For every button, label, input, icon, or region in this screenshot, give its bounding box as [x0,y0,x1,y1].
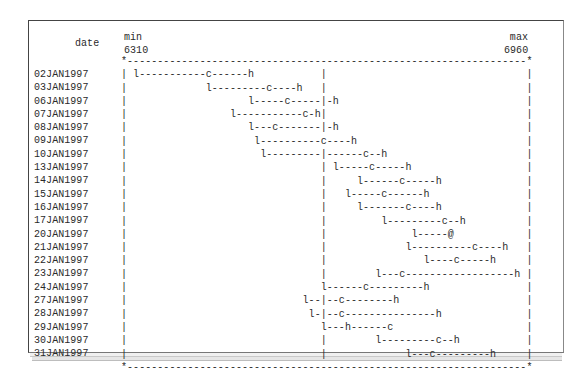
hlc-row: | l---------|------c--h | [121,148,532,161]
hlc-row: | | l---c---------h | [121,348,532,361]
row-date-label: 06JAN1997 [34,95,88,108]
hlc-row: | l-----------c------h | | [121,68,532,81]
hlc-row: | l---h------c | [121,321,532,334]
axis-min-header: min6310 [124,31,148,58]
hlc-row: | | l----c-----h | [121,254,532,267]
hlc-row: | | l-------c----h | [121,201,532,214]
hlc-row: | l-----------c-h| | [121,108,532,121]
date-column: 02JAN199703JAN199706JAN199707JAN199708JA… [34,68,88,361]
row-date-label: 03JAN1997 [34,81,88,94]
row-date-label: 10JAN1997 [34,148,88,161]
row-date-label: 20JAN1997 [34,228,88,241]
hlc-row: | | l-----c------h | [121,188,532,201]
hlc-row: | l------c---------h | [121,281,532,294]
hlc-row: | | l-----@ | [121,228,532,241]
row-date-label: 02JAN1997 [34,68,88,81]
hlc-row: | l-|--c---------------h | [121,308,532,321]
axis-max-header: max6960 [504,31,528,58]
row-date-label: 07JAN1997 [34,108,88,121]
hlc-row: | l---c-------|-h | [121,121,532,134]
row-date-label: 14JAN1997 [34,174,88,187]
row-date-label: 24JAN1997 [34,281,88,294]
hlc-row: | l---------c----h | | [121,82,532,95]
hlc-plot-area: *---------------------------------------… [121,55,532,374]
hlc-row: | | l----------c----h | [121,241,532,254]
hlc-row: | | l---------c--h | [121,334,532,347]
row-date-label: 30JAN1997 [34,334,88,347]
row-date-label: 17JAN1997 [34,214,88,227]
hlc-row: | | l---------c--h | [121,215,532,228]
row-date-label: 21JAN1997 [34,241,88,254]
row-date-label: 28JAN1997 [34,307,88,320]
max-label: max [504,31,528,44]
hlc-row: | l----------c----h | [121,135,532,148]
row-date-label: 16JAN1997 [34,201,88,214]
row-date-label: 27JAN1997 [34,294,88,307]
row-date-label: 31JAN1997 [34,347,88,360]
hlc-row: | | l-----c-----h | [121,161,532,174]
min-label: min [124,31,148,44]
hlc-row: | l-----c-----|-h | [121,95,532,108]
row-date-label: 09JAN1997 [34,134,88,147]
date-column-header: date [75,37,99,50]
plot-bottom-border: *---------------------------------------… [121,361,532,374]
plot-top-border: *---------------------------------------… [121,55,532,68]
row-date-label: 22JAN1997 [34,254,88,267]
hlc-row: | | l------c-----h | [121,175,532,188]
row-date-label: 29JAN1997 [34,321,88,334]
hlc-row: | | l---c------------------h | [121,268,532,281]
row-date-label: 23JAN1997 [34,267,88,280]
row-date-label: 08JAN1997 [34,121,88,134]
row-date-label: 13JAN1997 [34,161,88,174]
row-date-label: 15JAN1997 [34,188,88,201]
hlc-row: | l--|--c--------h | [121,294,532,307]
